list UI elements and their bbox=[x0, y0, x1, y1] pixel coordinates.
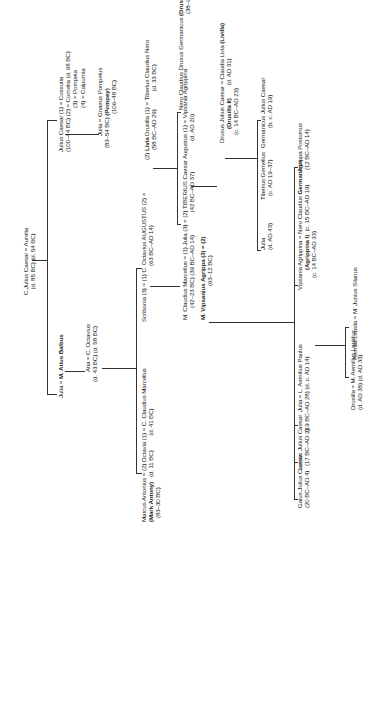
line-to-julius bbox=[47, 120, 57, 121]
line-agrippa-children bbox=[209, 322, 294, 323]
line-drusus-children bbox=[225, 158, 257, 159]
node-agrippa-postumus: Agrippa Postumus (12 BC–AD 14) bbox=[296, 123, 310, 172]
node-vipsania-agrippina: Vipsania Agrippina = Nero Claudius Germa… bbox=[296, 160, 318, 290]
line-to-julia43 bbox=[257, 250, 261, 251]
line-octavia-augustus bbox=[136, 268, 137, 473]
line-agrippa-kids bbox=[294, 167, 295, 500]
line-atia-children bbox=[102, 368, 136, 369]
line-balbus-atia bbox=[65, 371, 85, 372]
line-paulus-children bbox=[315, 345, 345, 346]
node-agrippa: M. Vipsanius Agrippa (3) = (2) (63–12 BC… bbox=[199, 237, 213, 320]
node-julius-caesar: Julius Caesar (1) = Cossutia (100–44 BC)… bbox=[57, 51, 86, 152]
node-drusus-julius-caesar: Drusus Julius Caesar = Claudia Livia (Li… bbox=[218, 23, 240, 143]
node-marcus-antonius: Marcus Antonius = (2) Octavia (1) = C. C… bbox=[140, 368, 162, 522]
line-cjc-children bbox=[47, 120, 48, 395]
line-drusus-kids bbox=[257, 120, 258, 250]
line-paulus-kids bbox=[345, 327, 346, 377]
line-to-julia-balbus bbox=[47, 394, 57, 395]
node-germanicus-jc: Germanicus Julius Caesar (b. c. AD 19) bbox=[259, 78, 273, 148]
node-scribonia-augustus: Scribonia (3) = (1) C. Octavius AUGUSTUS… bbox=[140, 193, 154, 322]
node-julia-pompey: Julia = Gnaeus Pompeius (83–54 BC) (Pomp… bbox=[96, 68, 118, 148]
node-c-julius-caesar: C.Julius Caesar = Aurelia (d. 85 BC) (d.… bbox=[22, 228, 36, 295]
node-tiberius-gemellus: Tiberius Gemellus (c. AD 19–37) bbox=[259, 152, 273, 200]
node-livia: (2) Livia Drusilla (1) = Tiberius Claudi… bbox=[143, 40, 157, 160]
node-julia-paulus: Julia = L. Aemilius Paulus (19 BC–AD 28)… bbox=[296, 344, 310, 432]
node-julia-balbus: Julia = M. Atius Balbus bbox=[57, 334, 64, 398]
node-julia-d43: Julia (d. AD 43) bbox=[259, 223, 273, 250]
line-livia-children bbox=[153, 168, 177, 169]
line-to-lepida bbox=[345, 327, 349, 328]
line-scribonia-julia bbox=[150, 286, 180, 287]
line-tiberius-drusus bbox=[177, 112, 178, 224]
node-marcellus-julia-tiberius: M. Claudius Marcellus = (1) Julia (3) = … bbox=[181, 69, 195, 320]
node-aemilia-lepida: Aemilia Lepida = M. Junius Silanus bbox=[351, 267, 358, 360]
node-atia: Atia = C. Octavius (d. 43 BC) (d. 58 BC) bbox=[84, 324, 98, 382]
